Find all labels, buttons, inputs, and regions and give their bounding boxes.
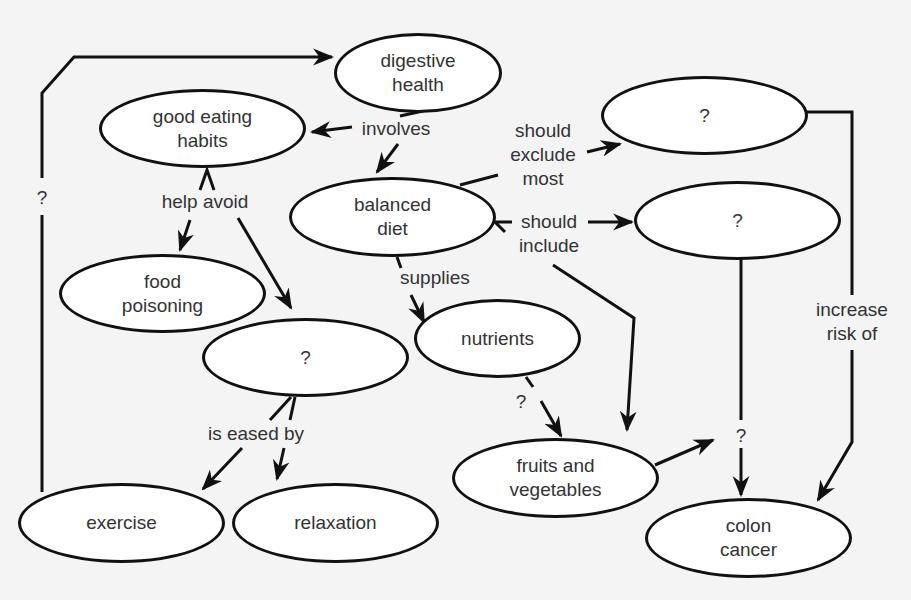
node-unknown-include: ? [634,181,841,260]
node-digestive-health: digestive health [334,33,502,113]
edge-eased-to-exercise [203,448,242,489]
label-should-exclude-most: should exclude most [500,119,586,191]
edge-help-avoid-to-food-poisoning [180,220,190,250]
edge-exclude-to-unknown [587,144,620,152]
edge-nutrients-to-q [526,377,533,387]
node-colon-cancer: colon cancer [645,498,852,578]
edge-supplies-to-nutrients [411,295,424,322]
edge-involves-to-good-eating-habits [312,127,352,132]
node-nutrients: nutrients [414,299,581,378]
edge-balanced-to-exclude [460,175,498,185]
node-exercise: exercise [18,483,225,563]
edge-increase-to-colon [818,350,852,500]
edge-fruits-to-q [655,440,713,465]
node-balanced-diet: balanced diet [289,177,496,257]
label-unknown-colon: ? [731,424,751,448]
label-involves: involves [356,117,436,141]
edge-eased-to-relaxation [277,448,284,479]
edge-involves-to-balanced-diet [377,144,398,172]
label-supplies: supplies [400,266,486,290]
edge-good-eating-to-help-avoid [200,170,214,190]
node-good-eating-habits: good eating habits [99,89,306,168]
node-relaxation: relaxation [232,483,439,563]
node-food-poisoning: food poisoning [59,254,266,333]
node-unknown-avoid: ? [202,318,409,397]
node-fruits-and-vegetables: fruits and vegetables [452,438,659,518]
label-unknown-nutrients-fruits: ? [511,390,531,414]
concept-map: digestive health good eating habits bala… [0,0,911,600]
edge-unknown-to-eased [270,397,295,420]
label-should-include: should include [510,210,588,258]
edge-q-to-fruits [541,401,561,436]
label-increase-risk-of: increase risk of [806,298,898,346]
node-unknown-exclude: ? [601,76,808,155]
label-unknown-left: ? [32,186,52,210]
label-is-eased-by: is eased by [196,422,316,446]
label-help-avoid: help avoid [150,190,260,214]
